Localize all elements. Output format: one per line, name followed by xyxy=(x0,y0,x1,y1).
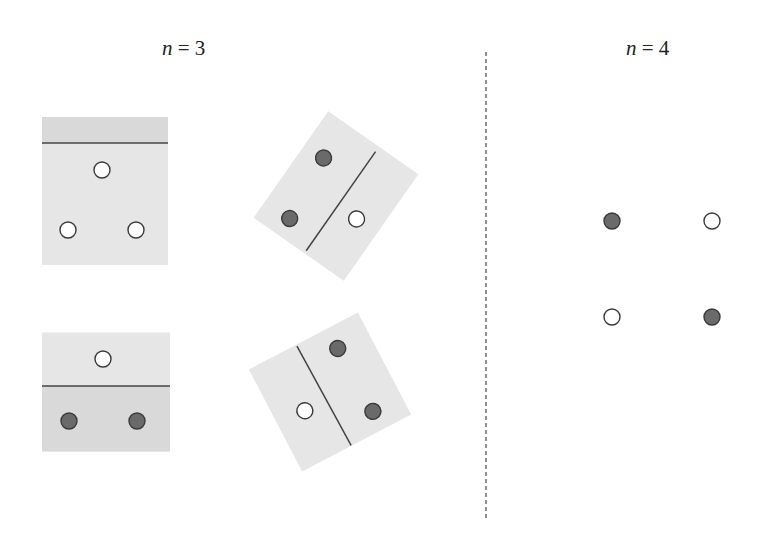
panel-background xyxy=(249,313,411,472)
white-point xyxy=(95,351,111,367)
white-point xyxy=(94,162,110,178)
white-point xyxy=(128,222,144,238)
dark-point xyxy=(704,309,720,325)
white-point xyxy=(604,309,620,325)
dark-point xyxy=(61,413,77,429)
diagram-canvas xyxy=(0,0,762,542)
n4-configuration xyxy=(604,213,720,325)
white-point xyxy=(704,213,720,229)
dark-point xyxy=(604,213,620,229)
panel-background xyxy=(254,111,419,281)
panel-shaded-region xyxy=(42,117,168,143)
panel-bottom-left xyxy=(42,333,170,452)
panel-top-left xyxy=(42,117,168,265)
n3-configurations xyxy=(42,111,418,471)
dark-point xyxy=(129,413,145,429)
white-point xyxy=(60,222,76,238)
panel-bottom-right xyxy=(249,313,411,472)
panel-top-right xyxy=(254,111,419,281)
